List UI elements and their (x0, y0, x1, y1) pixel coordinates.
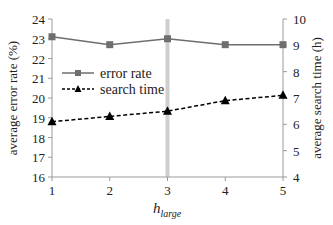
left-tick-label: 17 (32, 150, 46, 165)
triangle-marker-icon (279, 90, 288, 99)
left-tick-label: 23 (32, 32, 45, 47)
square-marker-icon (49, 33, 56, 40)
left-tick-label: 16 (32, 170, 46, 185)
square-marker-icon (75, 70, 81, 76)
right-tick-label: 9 (293, 38, 300, 53)
square-marker-icon (106, 41, 113, 48)
legend-item-error-rate: error rate (62, 66, 152, 81)
right-tick-label: 10 (293, 12, 306, 27)
y-axis-title-right: average search time (h) (309, 37, 324, 159)
right-tick-label: 4 (293, 170, 300, 185)
square-marker-icon (222, 41, 229, 48)
left-tick-label: 19 (32, 111, 45, 126)
left-tick-label: 20 (32, 91, 45, 106)
x-tick-label: 4 (222, 183, 229, 198)
highlight-bar (166, 19, 170, 177)
chart-canvas: 161718192021222324 45678910 12345 averag… (0, 0, 333, 225)
left-tick-label: 21 (32, 71, 45, 86)
legend-item-search-time: search time (62, 82, 164, 97)
left-tick-label: 24 (32, 12, 46, 27)
x-tick-label: 1 (49, 183, 56, 198)
left-tick-label: 18 (32, 131, 45, 146)
y-axis-title-left: average error rate (%) (5, 41, 20, 155)
x-tick-label: 5 (280, 183, 287, 198)
dual-axis-line-chart: 161718192021222324 45678910 12345 averag… (0, 0, 333, 225)
x-tick-label: 2 (107, 183, 114, 198)
legend-label-search-time: search time (100, 82, 164, 97)
right-tick-label: 7 (293, 91, 300, 106)
highlight-bar-rect (166, 19, 170, 177)
x-axis-title-subscript: large (160, 208, 181, 219)
square-marker-icon (164, 35, 171, 42)
right-tick-label: 5 (293, 144, 300, 159)
left-tick-label: 22 (32, 52, 45, 67)
right-tick-label: 8 (293, 65, 300, 80)
legend: error rate search time (62, 66, 164, 97)
triangle-marker-icon (75, 85, 82, 92)
x-axis-title-main: h (153, 200, 161, 216)
x-tick-label: 3 (164, 183, 171, 198)
right-tick-label: 6 (293, 117, 300, 132)
x-axis-title: hlarge (153, 200, 182, 219)
x-axis-ticks: 12345 (49, 177, 287, 198)
square-marker-icon (280, 41, 287, 48)
legend-label-error-rate: error rate (100, 66, 152, 81)
